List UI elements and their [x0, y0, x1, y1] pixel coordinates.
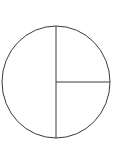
circle-fraction-figure — [0, 0, 113, 144]
diagram-canvas — [0, 0, 113, 144]
